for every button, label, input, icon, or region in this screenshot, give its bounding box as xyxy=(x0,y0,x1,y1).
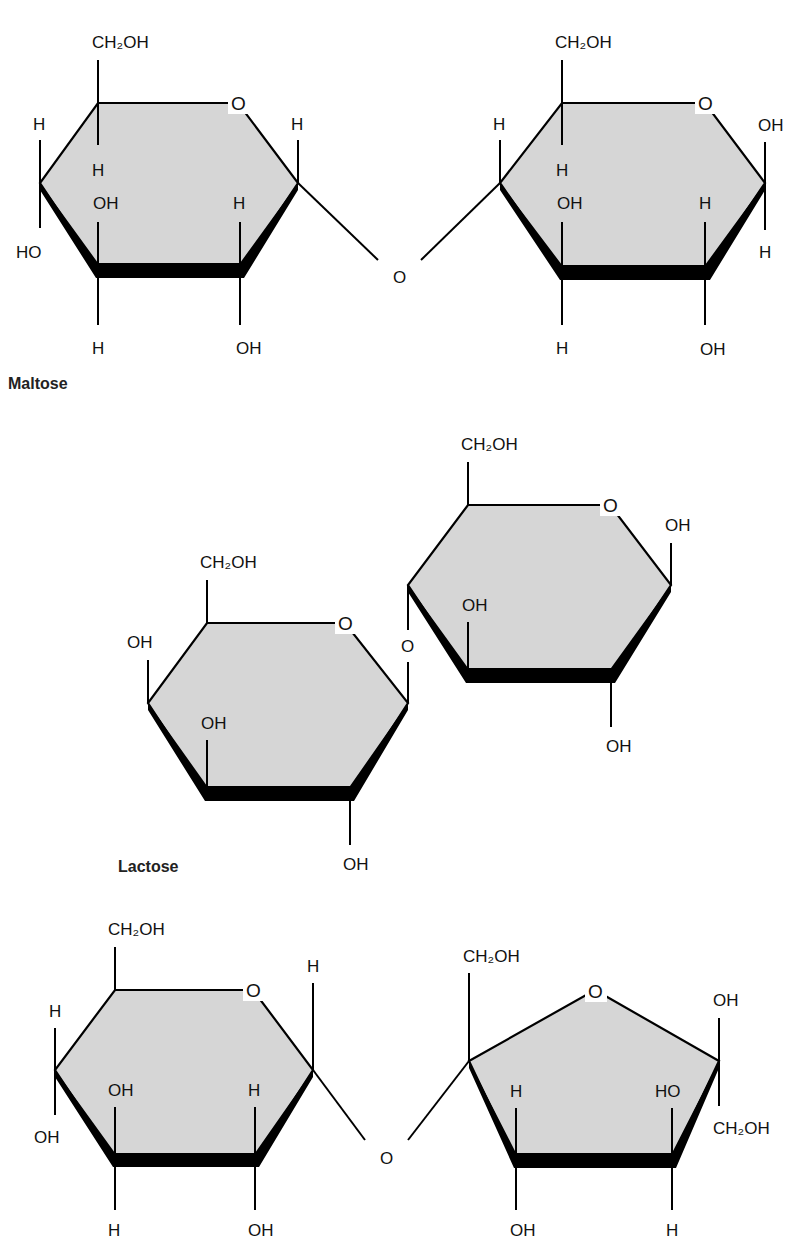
maltose-left-ring: O CH₂OH H H HO OH H H OH H xyxy=(16,33,303,358)
c2-down: OH xyxy=(606,737,632,756)
c3-down: H xyxy=(92,339,104,358)
c2-down: OH xyxy=(236,339,262,358)
c3-up: OH xyxy=(462,596,488,615)
c4-up: H xyxy=(49,1002,61,1021)
c3-down: OH xyxy=(510,1221,536,1240)
glycosidic-oxygen: O xyxy=(401,637,414,656)
c4-up: H xyxy=(493,115,505,134)
ring-oxygen: O xyxy=(246,980,261,1001)
c3-down: H xyxy=(556,339,568,358)
c3-up: H xyxy=(510,1082,522,1101)
sucrose-structure: O CH₂OH H OH OH H H OH H O O CH₂OH xyxy=(34,920,770,1240)
c6-group: CH₂OH xyxy=(92,33,149,52)
ring-oxygen: O xyxy=(338,613,353,634)
maltose-structure: O CH₂OH H H HO OH H H OH H O xyxy=(8,33,784,392)
c2-up: H xyxy=(699,194,711,213)
c6-group: CH₂OH xyxy=(108,920,165,939)
lactose-left-ring: O CH₂OH OH OH OH xyxy=(127,553,408,874)
c1-up: H xyxy=(307,957,319,976)
c2-up: H xyxy=(233,194,245,213)
c4-up: HO xyxy=(655,1082,681,1101)
ring-oxygen: O xyxy=(603,495,618,516)
c2-group: CH₂OH xyxy=(463,947,520,966)
c3-up: OH xyxy=(201,714,227,733)
c2-down: OH xyxy=(343,855,369,874)
c1-up: OH xyxy=(665,516,691,535)
c5-down: CH₂OH xyxy=(713,1119,770,1138)
c5-h: H xyxy=(556,161,568,180)
c4-down: OH xyxy=(34,1128,60,1147)
lactose-label: Lactose xyxy=(118,858,179,875)
c1-down: H xyxy=(759,243,771,262)
glycosidic-bond xyxy=(298,183,378,260)
lactose-structure: O CH₂OH OH OH OH O O CH₂OH OH OH xyxy=(118,435,691,875)
glycosidic-bond xyxy=(313,1070,365,1140)
ring-oxygen: O xyxy=(231,93,246,114)
c4-up: OH xyxy=(127,633,153,652)
glycosidic-bond xyxy=(408,1061,469,1140)
c4-down: H xyxy=(666,1221,678,1240)
c3-up: OH xyxy=(557,194,583,213)
lactose-right-ring: O CH₂OH OH OH OH xyxy=(408,435,691,756)
c1-up: OH xyxy=(758,116,784,135)
disaccharide-diagram: O CH₂OH H H HO OH H H OH H O xyxy=(0,0,789,1240)
c6-group: CH₂OH xyxy=(461,435,518,454)
c5-h: H xyxy=(92,161,104,180)
c3-up: OH xyxy=(108,1081,134,1100)
glycosidic-oxygen: O xyxy=(380,1149,393,1168)
glycosidic-bond xyxy=(421,183,500,260)
maltose-label: Maltose xyxy=(8,375,68,392)
maltose-right-ring: O CH₂OH H H OH H H OH OH H xyxy=(493,33,784,359)
c6-group: CH₂OH xyxy=(200,553,257,572)
glycosidic-oxygen: O xyxy=(393,268,406,287)
c3-up: OH xyxy=(93,194,119,213)
c6-group: CH₂OH xyxy=(555,33,612,52)
sucrose-fructose-ring: O CH₂OH H OH HO H OH CH₂OH xyxy=(463,947,770,1240)
c2-down: OH xyxy=(700,340,726,359)
ring-oxygen: O xyxy=(698,93,713,114)
ring-oxygen: O xyxy=(588,981,603,1002)
c5-up: OH xyxy=(713,991,739,1010)
c2-up: H xyxy=(248,1081,260,1100)
c1-up: H xyxy=(291,115,303,134)
c4-up: H xyxy=(33,115,45,134)
c3-down: H xyxy=(108,1221,120,1240)
c2-down: OH xyxy=(248,1221,274,1240)
c4-down: HO xyxy=(16,243,42,262)
sucrose-glucose-ring: O CH₂OH H OH OH H H OH H xyxy=(34,920,319,1240)
